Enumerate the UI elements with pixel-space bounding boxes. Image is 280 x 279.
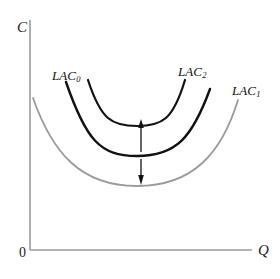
shift-up-arrow bbox=[138, 119, 144, 152]
curve-label-lac1-subscript: 1 bbox=[256, 89, 261, 99]
curve-label-lac2-text: LAC bbox=[178, 64, 202, 79]
curve-label-lac0-subscript: 0 bbox=[76, 74, 81, 84]
x-axis-label: Q bbox=[258, 243, 269, 258]
shift-down-arrow bbox=[138, 159, 144, 185]
figure-canvas bbox=[0, 0, 280, 279]
lac-curve-figure: C Q 0 LAC0 LAC2 LAC1 bbox=[0, 0, 280, 279]
curve-lac1 bbox=[33, 98, 238, 186]
curve-label-lac0: LAC0 bbox=[52, 69, 80, 82]
curve-label-lac0-text: LAC bbox=[52, 68, 76, 83]
origin-label: 0 bbox=[19, 246, 26, 260]
y-axis-label: C bbox=[17, 20, 27, 35]
curve-label-lac1-text: LAC bbox=[232, 83, 256, 98]
curve-label-lac2-subscript: 2 bbox=[202, 70, 207, 80]
shift-down-arrow-head bbox=[138, 175, 144, 185]
curve-lac2 bbox=[88, 80, 185, 126]
curve-label-lac1: LAC1 bbox=[232, 84, 260, 97]
curve-label-lac2: LAC2 bbox=[178, 65, 206, 78]
curve-lac0 bbox=[66, 82, 210, 156]
shift-up-arrow-head bbox=[138, 119, 144, 128]
